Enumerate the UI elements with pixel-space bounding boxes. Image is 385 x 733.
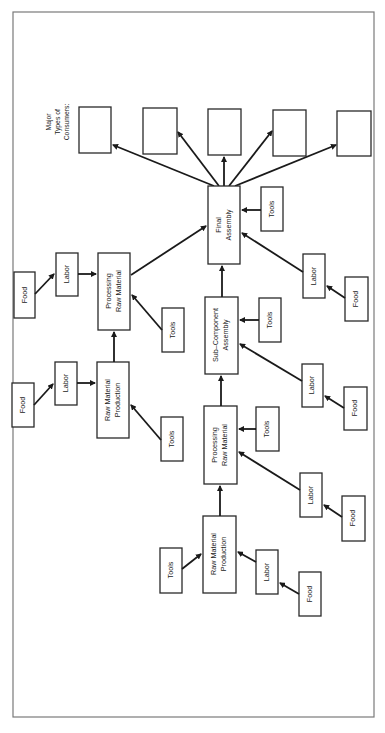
prm-a-line1: Processing bbox=[104, 273, 113, 309]
tools-label-sca: Tools bbox=[265, 311, 274, 328]
processing-raw-material-b-label: Processing Raw Material bbox=[210, 424, 229, 466]
consumers-header: Major Types of Consumers: bbox=[45, 104, 70, 141]
tools-label-rmp-b: Tools bbox=[166, 561, 175, 578]
food-label-rmp-a: Food bbox=[18, 397, 27, 413]
food-label-rmp-b: Food bbox=[305, 586, 314, 602]
food-label-final: Food bbox=[351, 291, 360, 307]
processing-raw-material-a-label: Processing Raw Material bbox=[104, 270, 123, 312]
consumer-box-3 bbox=[208, 109, 241, 155]
sca-line2: Assembly bbox=[221, 319, 230, 351]
final-assembly-line2: Assembly bbox=[224, 209, 233, 241]
arrow-food-to-labor-prm-b bbox=[324, 505, 342, 517]
arrow-tools-to-rmp-a bbox=[131, 405, 161, 440]
arrow-tools-to-prm-a bbox=[132, 295, 162, 330]
labor-label-prm-a: Labor bbox=[62, 264, 71, 283]
raw-material-production-b-label: Raw Material Production bbox=[209, 533, 228, 575]
arrow-prm-a-to-final bbox=[131, 226, 206, 275]
arrow-food-to-labor-prm-a bbox=[35, 274, 54, 294]
consumers-header-line2: Types of bbox=[54, 109, 62, 135]
consumer-box-1 bbox=[79, 107, 111, 153]
raw-material-production-a-label: Raw Material Production bbox=[103, 379, 122, 421]
rmp-a-line2: Production bbox=[113, 383, 122, 417]
consumer-box-5 bbox=[337, 111, 371, 156]
arrow-labor-to-rmp-b bbox=[238, 552, 256, 562]
arrow-labor-to-prm-b bbox=[239, 452, 300, 490]
tools-label-prm-a: Tools bbox=[168, 321, 177, 338]
consumer-box-2 bbox=[143, 108, 177, 154]
arrow-food-to-labor-final bbox=[327, 286, 345, 298]
arrow-labor-to-sca bbox=[240, 344, 302, 381]
food-label-prm-b: Food bbox=[348, 510, 357, 526]
labor-label-rmp-a: Labor bbox=[61, 373, 70, 392]
arrow-labor-to-final bbox=[242, 233, 303, 272]
prm-b-line2: Raw Material bbox=[220, 424, 229, 466]
production-flow-diagram: Major Types of Consumers: Final Assembly… bbox=[0, 0, 385, 733]
rmp-a-line1: Raw Material bbox=[103, 379, 112, 421]
labor-label-prm-b: Labor bbox=[306, 485, 315, 504]
prm-b-line1: Processing bbox=[210, 427, 219, 463]
rmp-b-line1: Raw Material bbox=[209, 533, 218, 575]
arrow-food-to-labor-rmp-a bbox=[34, 384, 53, 405]
arrow-food-to-labor-sca bbox=[325, 396, 344, 408]
arrow-food-to-labor-rmp-b bbox=[280, 583, 299, 594]
final-assembly-line1: Final bbox=[214, 217, 223, 233]
prm-a-line2: Raw Material bbox=[114, 270, 123, 312]
arrow-tools-to-rmp-b bbox=[182, 554, 201, 569]
tools-label-prm-b: Tools bbox=[262, 420, 271, 437]
consumers-header-line3: Consumers: bbox=[63, 104, 70, 141]
consumers-header-line1: Major bbox=[45, 113, 53, 131]
sca-line1: Sub–Component bbox=[211, 308, 220, 362]
tools-label-final: Tools bbox=[267, 200, 276, 217]
labor-label-final: Labor bbox=[309, 266, 318, 285]
labor-label-rmp-b: Labor bbox=[262, 562, 271, 581]
tools-label-rmp-a: Tools bbox=[167, 430, 176, 447]
consumer-box-4 bbox=[273, 110, 306, 156]
labor-label-sca: Labor bbox=[307, 375, 316, 394]
food-label-sca: Food bbox=[350, 400, 359, 416]
rmp-b-line2: Production bbox=[219, 537, 228, 571]
food-label-prm-a: Food bbox=[20, 287, 29, 303]
